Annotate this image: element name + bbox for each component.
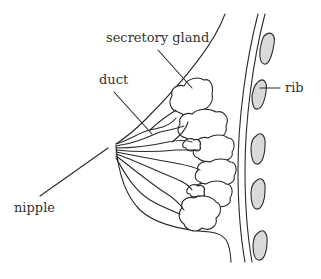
label-rib: rib: [285, 80, 304, 95]
gland-lobe: [179, 196, 220, 231]
label-secretory-gland: secretory gland: [106, 30, 209, 45]
leader-lines: [40, 50, 280, 196]
rib-2: [252, 80, 266, 109]
rib-1: [260, 33, 275, 64]
breast-anatomy-diagram: secretory gland duct rib nipple: [0, 0, 321, 279]
leader-secretory-gland: [158, 50, 192, 88]
label-duct: duct: [99, 72, 129, 87]
secretory-gland-lobes: [170, 78, 236, 231]
leader-duct: [114, 92, 152, 134]
ribs: [251, 33, 274, 260]
rib-3: [251, 134, 265, 164]
leader-nipple: [40, 148, 108, 196]
label-nipple: nipple: [14, 200, 55, 215]
rib-4: [251, 179, 265, 209]
rib-5: [253, 231, 267, 260]
